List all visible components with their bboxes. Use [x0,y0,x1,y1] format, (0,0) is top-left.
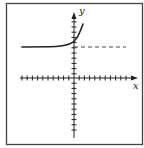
y-axis-label: y [78,5,85,16]
x-axis-label: x [133,80,139,91]
y-axis-arrow-icon [72,12,77,19]
x-axis: x [20,76,139,92]
graph-figure: x [0,0,144,148]
